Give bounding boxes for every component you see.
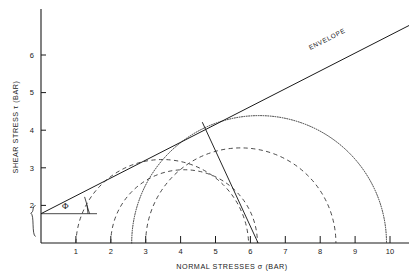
y-ticklabel-3: 3 xyxy=(30,164,34,173)
failure-envelope-line xyxy=(41,26,409,214)
chart-svg: 2 3 4 5 6 1 2 3 4 5 6 7 8 9 10 NORMAL ST… xyxy=(0,0,414,280)
x-ticklabel-4: 4 xyxy=(179,247,183,256)
y-ticklabel-5: 5 xyxy=(30,88,34,97)
x-ticklabel-1: 1 xyxy=(74,247,78,256)
x-ticklabel-2: 2 xyxy=(109,247,113,256)
y-axis-title: SHEAR STRESS τ (BAR) xyxy=(11,81,20,174)
x-ticklabel-3: 3 xyxy=(144,247,148,256)
x-ticklabel-9: 9 xyxy=(353,247,357,256)
x-ticklabel-5: 5 xyxy=(213,247,217,256)
envelope-label: ENVELOPE xyxy=(307,27,346,51)
phi-label: Φ xyxy=(62,201,69,211)
x-tick-group: 1 2 3 4 5 6 7 8 9 10 xyxy=(74,236,394,256)
x-ticklabel-10: 10 xyxy=(386,247,394,256)
mohr-circle-2 xyxy=(111,170,258,243)
x-ticklabel-7: 7 xyxy=(283,247,287,256)
mohr-circle-4 xyxy=(146,148,336,243)
y-tick-group: 2 3 4 5 6 xyxy=(30,51,46,210)
failure-plane-line xyxy=(202,122,258,243)
x-ticklabel-8: 8 xyxy=(318,247,322,256)
mohr-coulomb-chart: 2 3 4 5 6 1 2 3 4 5 6 7 8 9 10 NORMAL ST… xyxy=(0,0,414,280)
mohr-circle-1 xyxy=(76,160,249,243)
x-axis-title: NORMAL STRESSES σ (BAR) xyxy=(176,262,287,271)
y-ticklabel-4: 4 xyxy=(30,126,34,135)
y-ticklabel-6: 6 xyxy=(30,51,34,60)
x-ticklabel-6: 6 xyxy=(248,247,252,256)
